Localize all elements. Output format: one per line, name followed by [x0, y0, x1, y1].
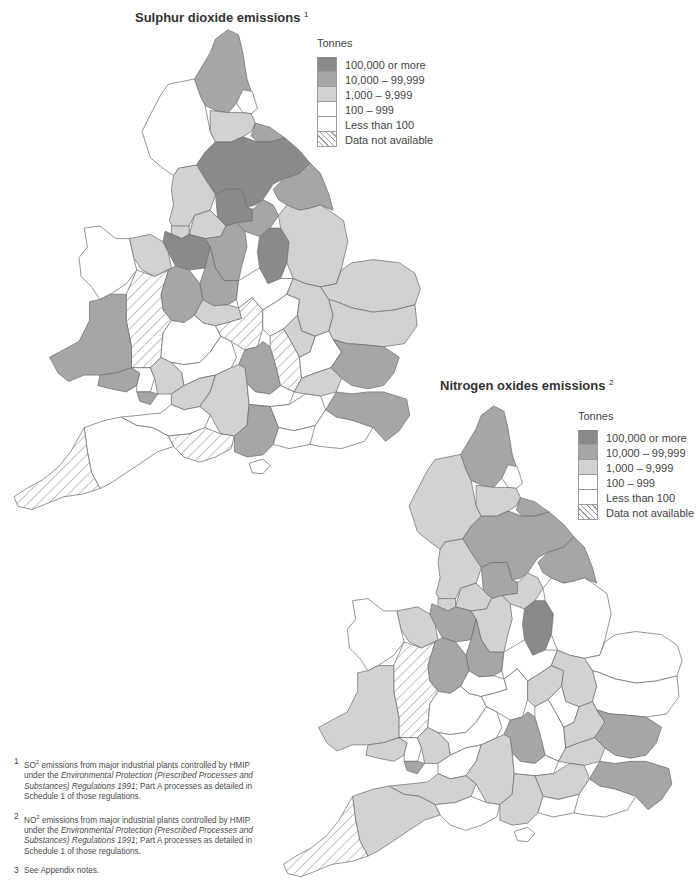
region-gwynedd: Gwynedd: [79, 226, 137, 300]
region-isle-of-wight: Isle of Wight: [249, 459, 270, 474]
legend-row-100k: 100,000 or more: [578, 430, 694, 445]
nox-title-text: Nitrogen oxides emissions: [440, 378, 605, 393]
legend-swatch-10k: [578, 445, 598, 460]
legend-row-lt100: Less than 100: [578, 490, 694, 505]
legend-swatch-100k: [578, 430, 598, 445]
region-essex: Essex: [331, 339, 399, 388]
nox-footnote-ref: 2: [609, 378, 613, 387]
region-lincolnshire: Lincolnshire: [279, 205, 348, 287]
legend-label: Data not available: [606, 507, 694, 519]
legend-label: 1,000 – 9,999: [606, 462, 673, 474]
footnote-number: 3: [14, 866, 24, 877]
legend-label: Less than 100: [606, 492, 675, 504]
footnote-3: 3 See Appendix notes.: [14, 866, 254, 877]
footnotes: 1 SO2 emissions from major industrial pl…: [14, 757, 254, 885]
footnote-number: 1: [14, 757, 24, 803]
footnote-text: SO2 emissions from major industrial plan…: [24, 757, 254, 803]
region-dyfed: Dyfed: [50, 294, 132, 381]
legend-label: 100,000 or more: [606, 432, 687, 444]
legend-label: 100 – 999: [606, 477, 655, 489]
legend-row-10k: 10,000 – 99,999: [578, 445, 694, 460]
legend-label: 10,000 – 99,999: [606, 447, 686, 459]
legend-swatch-lt100: [578, 490, 598, 505]
footnote-number: 2: [14, 812, 24, 858]
region-south-glamorgan: South Glamorgan: [137, 392, 158, 405]
footnote-chem: SO: [24, 761, 36, 770]
region-durham: Durham: [210, 110, 255, 142]
so2-regions: NorthumberlandTyne and WearCumbriaDurham…: [14, 30, 420, 510]
legend-swatch-100: [578, 475, 598, 490]
nox-legend-title: Tonnes: [578, 410, 694, 422]
nox-legend: Tonnes 100,000 or more 10,000 – 99,999 1…: [578, 410, 694, 520]
footnote-text: NO2 emissions from major industrial plan…: [24, 812, 254, 858]
legend-swatch-hatch: [578, 505, 598, 520]
footnote-2: 2 NO2 emissions from major industrial pl…: [14, 812, 254, 858]
nox-map-title: Nitrogen oxides emissions 2: [440, 378, 614, 393]
footnote-1: 1 SO2 emissions from major industrial pl…: [14, 757, 254, 803]
legend-swatch-1k: [578, 460, 598, 475]
legend-row-100: 100 – 999: [578, 475, 694, 490]
footnote-chem: NO: [24, 815, 36, 824]
footnote-text: See Appendix notes.: [24, 866, 99, 877]
legend-row-na: Data not available: [578, 505, 694, 520]
legend-row-1k: 1,000 – 9,999: [578, 460, 694, 475]
